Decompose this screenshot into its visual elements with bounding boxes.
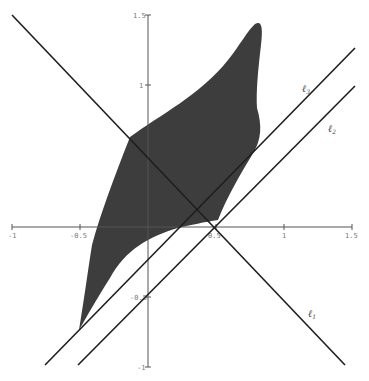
y-tick-label: 1.5 bbox=[133, 12, 146, 20]
x-tick-label: 1 bbox=[282, 232, 286, 240]
x-tick-label: -0.5 bbox=[70, 232, 87, 240]
y-tick-label: 1 bbox=[139, 82, 143, 90]
line-l1 bbox=[12, 15, 345, 365]
y-tick-label: -1 bbox=[137, 364, 145, 372]
label-l2: ℓ2 bbox=[328, 123, 336, 135]
shaded-region bbox=[79, 23, 262, 330]
label-l1: ℓ1 bbox=[308, 308, 316, 320]
x-tick-label: 1.5 bbox=[345, 232, 358, 240]
diagram-canvas: -1 -0.5 0.5 1 1.5 1.5 1 -0.5 -1 ℓ1 ℓ2 ℓ3 bbox=[0, 0, 369, 381]
label-l3: ℓ3 bbox=[302, 83, 310, 95]
x-tick-label: -1 bbox=[8, 232, 16, 240]
